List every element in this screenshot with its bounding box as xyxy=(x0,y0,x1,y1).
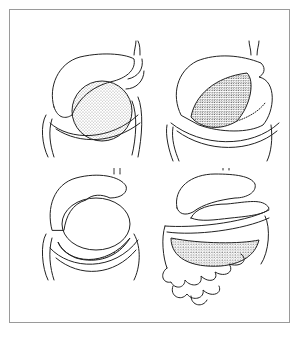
anatomy-drawing-2 xyxy=(151,15,291,170)
panel-top-right-illustration xyxy=(151,15,291,170)
anatomy-drawing-4 xyxy=(151,168,291,323)
anatomy-drawing-3 xyxy=(10,168,150,323)
panel-top-left-illustration xyxy=(10,15,150,170)
anatomy-drawing-1 xyxy=(10,15,150,170)
panel-bottom-left-illustration xyxy=(10,168,150,323)
figure-frame xyxy=(9,9,290,323)
panel-bottom-right-illustration xyxy=(151,168,291,323)
